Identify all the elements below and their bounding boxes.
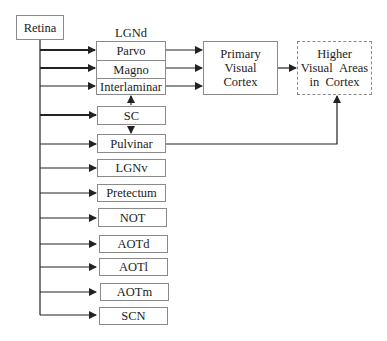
not-box: NOT xyxy=(98,208,167,227)
higher-line-1: Higher xyxy=(317,47,352,61)
lgnd-row-magno: Magno xyxy=(97,60,165,78)
aotm-label: AOTm xyxy=(117,285,152,299)
primary-line-1: Primary xyxy=(220,47,260,61)
retina-label: Retina xyxy=(24,21,57,35)
higher-line-2: Visual Areas xyxy=(301,61,368,75)
scn-label: SCN xyxy=(121,309,145,323)
pretectum-label: Pretectum xyxy=(106,186,157,200)
sc-label: SC xyxy=(124,109,139,123)
retina-box: Retina xyxy=(16,15,64,40)
not-label: NOT xyxy=(120,211,146,225)
higher-line-3: in Cortex xyxy=(310,75,360,89)
higher-visual-areas-box: Higher Visual Areas in Cortex xyxy=(297,41,372,95)
primary-line-3: Cortex xyxy=(223,75,257,89)
lgnd-box: Parvo Magno Interlaminar xyxy=(96,41,166,95)
pretectum-box: Pretectum xyxy=(97,184,166,202)
aotl-label: AOTl xyxy=(119,260,148,274)
pulvinar-label: Pulvinar xyxy=(110,137,152,151)
pulvinar-box: Pulvinar xyxy=(97,134,166,153)
lgnd-title: LGNd xyxy=(96,26,166,41)
lgnv-label: LGNv xyxy=(116,161,148,175)
visual-pathway-diagram: Retina LGNd Parvo Magno Interlaminar Pri… xyxy=(0,0,387,341)
primary-line-2: Visual xyxy=(225,61,257,75)
lgnd-row-parvo: Parvo xyxy=(97,42,165,60)
lgnv-box: LGNv xyxy=(97,159,166,177)
aotl-box: AOTl xyxy=(99,258,168,276)
aotd-box: AOTd xyxy=(99,235,168,253)
scn-box: SCN xyxy=(99,307,168,325)
aotm-box: AOTm xyxy=(100,283,169,301)
lgnd-row-interlaminar: Interlaminar xyxy=(97,78,165,95)
aotd-label: AOTd xyxy=(118,237,150,251)
sc-box: SC xyxy=(97,106,166,125)
primary-visual-cortex-box: Primary Visual Cortex xyxy=(203,41,278,95)
